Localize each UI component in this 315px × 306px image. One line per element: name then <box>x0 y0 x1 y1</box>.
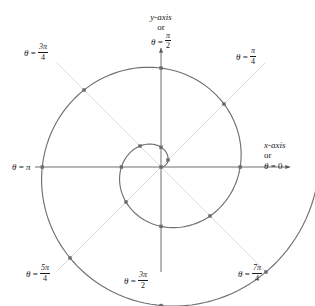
ray-label-3pi-over-2: θ = 3π 2 <box>124 272 194 291</box>
theta-value: π <box>26 162 31 172</box>
equals-sign: = <box>31 48 36 58</box>
three-pi-over-4-fraction: 3π 4 <box>38 43 48 62</box>
point-theta-13pi-4 <box>68 256 71 259</box>
ray-label-7pi-over-4: θ = 7π 4 <box>238 265 308 284</box>
equals-sign: = <box>243 52 248 62</box>
x-axis-label-line2: or <box>264 150 314 160</box>
theta-symbol: θ <box>264 161 268 171</box>
point-theta-pi-2 <box>159 146 162 149</box>
point-theta-5pi-4 <box>124 200 127 203</box>
theta-symbol: θ <box>236 52 240 62</box>
fraction-denominator: 4 <box>38 53 48 62</box>
y-axis-label-line1: y-axis <box>105 12 217 22</box>
y-axis-label-line2: or <box>105 22 217 32</box>
fraction-denominator: 4 <box>250 57 256 66</box>
ray-label-pi: θ = π <box>12 161 58 172</box>
point-theta-2pi <box>238 165 241 168</box>
point-theta-5pi-2 <box>159 66 162 69</box>
pi-over-2-fraction: π 2 <box>165 32 171 51</box>
pi-over-4-fraction: π 4 <box>250 47 256 66</box>
theta-symbol: θ <box>151 37 155 47</box>
y-axis-label-equation: θ = π 2 <box>105 33 217 52</box>
ray-label-3pi-over-4: θ = 3π 4 <box>24 44 94 63</box>
theta-value: 0 <box>278 161 283 171</box>
equals-sign: = <box>33 269 38 279</box>
three-pi-over-2-fraction: 3π 2 <box>138 271 148 290</box>
fraction-numerator: 7π <box>252 264 262 273</box>
fraction-numerator: π <box>165 32 171 41</box>
polar-spiral-figure: y-axis or θ = π 2 x-axis or θ = 0 θ = π … <box>0 0 315 306</box>
theta-symbol: θ <box>26 269 30 279</box>
point-theta-3pi-4 <box>138 144 141 147</box>
point-theta-11pi-4 <box>82 88 85 91</box>
point-theta-7pi-4 <box>208 214 211 217</box>
point-theta-pi-4 <box>166 158 169 161</box>
theta-symbol: θ <box>12 162 16 172</box>
fraction-denominator: 2 <box>138 281 148 290</box>
seven-pi-over-4-fraction: 7π 4 <box>252 264 262 283</box>
theta-symbol: θ <box>238 269 242 279</box>
x-axis-label: x-axis or θ = 0 <box>264 140 314 172</box>
equals-sign: = <box>19 162 24 172</box>
equals-sign: = <box>271 161 276 171</box>
fraction-denominator: 4 <box>252 274 262 283</box>
theta-symbol: θ <box>24 48 28 58</box>
point-theta-3pi-2 <box>159 225 162 228</box>
equals-sign: = <box>245 269 250 279</box>
equals-sign: = <box>158 37 163 47</box>
x-axis-label-equation: θ = 0 <box>264 161 314 172</box>
point-theta-pi <box>120 165 123 168</box>
x-axis-label-line1: x-axis <box>264 140 314 150</box>
equals-sign: = <box>131 276 136 286</box>
fraction-numerator: 5π <box>40 264 50 273</box>
fraction-denominator: 2 <box>165 41 171 50</box>
theta-symbol: θ <box>124 276 128 286</box>
y-axis-label: y-axis or θ = π 2 <box>105 12 217 51</box>
ray-label-pi-over-4: θ = π 4 <box>236 48 298 67</box>
fraction-numerator: 3π <box>38 43 48 52</box>
fraction-numerator: 3π <box>138 271 148 280</box>
five-pi-over-4-fraction: 5π 4 <box>40 264 50 283</box>
fraction-numerator: π <box>250 47 256 56</box>
ray-label-5pi-over-4: θ = 5π 4 <box>26 265 96 284</box>
fraction-denominator: 4 <box>40 274 50 283</box>
point-theta-9pi-4 <box>222 102 225 105</box>
point-theta-0 <box>159 165 162 168</box>
